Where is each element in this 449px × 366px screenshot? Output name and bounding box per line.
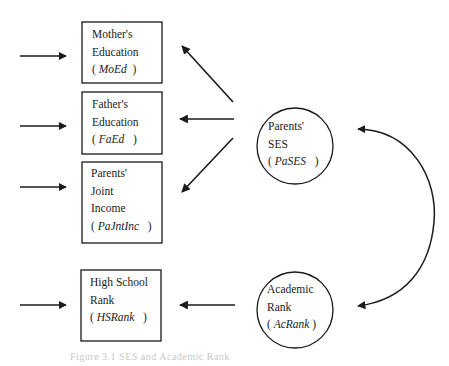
label-abbr-row: ( FaEd ): [92, 131, 139, 149]
paren-close: ): [148, 220, 152, 232]
abbr-pases: PaSES: [275, 155, 306, 167]
label-line: Joint: [91, 183, 152, 201]
label-parents-joint-income: Parents' Joint Income ( PaJntInc ): [91, 165, 152, 235]
label-academic-rank: Academic Rank ( AcRank ): [267, 281, 316, 334]
paren-close: ): [133, 133, 137, 145]
paren-close: ): [143, 311, 147, 323]
label-abbr-row: ( PaSES ): [268, 153, 319, 171]
paren-open: (: [91, 220, 95, 232]
label-abbr-row: ( HSRank ): [90, 309, 148, 327]
paren-open: (: [92, 133, 96, 145]
paren-open: (: [92, 63, 96, 75]
abbr-hsrank: HSRank: [97, 311, 135, 323]
label-mothers-education: Mother's Education ( MoEd ): [92, 26, 139, 79]
label-line: Mother's: [92, 26, 139, 44]
label-line: Education: [92, 44, 139, 62]
paren-close: ): [312, 318, 316, 330]
label-fathers-education: Father's Education ( FaEd ): [92, 96, 139, 149]
label-abbr-row: ( MoEd ): [92, 61, 139, 79]
label-line: Education: [92, 114, 139, 132]
path-pases-to-pajntinc: [182, 138, 233, 192]
label-line: High School: [90, 274, 148, 292]
paren-open: (: [267, 318, 271, 330]
paren-open: (: [268, 155, 272, 167]
label-abbr-row: ( AcRank ): [267, 316, 316, 334]
abbr-pajntinc: PaJntInc: [98, 220, 140, 232]
abbr-faed: FaEd: [99, 133, 125, 145]
path-pases-to-moed: [182, 46, 233, 102]
label-line: SES: [268, 136, 319, 154]
label-abbr-row: ( PaJntInc ): [91, 218, 152, 236]
label-parents-ses: Parents' SES ( PaSES ): [268, 118, 319, 171]
label-line: Parents': [91, 165, 152, 183]
label-line: Rank: [267, 299, 316, 317]
label-line: Academic: [267, 281, 316, 299]
label-line: Parents': [268, 118, 319, 136]
abbr-acrank: AcRank: [274, 318, 310, 330]
label-line: Rank: [90, 292, 148, 310]
label-line: Father's: [92, 96, 139, 114]
label-line: Income: [91, 200, 152, 218]
label-high-school-rank: High School Rank ( HSRank ): [90, 274, 148, 327]
paren-open: (: [90, 311, 94, 323]
paren-close: ): [315, 155, 319, 167]
paren-close: ): [133, 63, 137, 75]
abbr-moed: MoEd: [99, 63, 127, 75]
figure-caption: Figure 3.1 SES and Academic Rank: [70, 351, 230, 362]
path-diagram: [0, 0, 449, 366]
correlation-arrow-pases-acrank: [358, 129, 434, 306]
